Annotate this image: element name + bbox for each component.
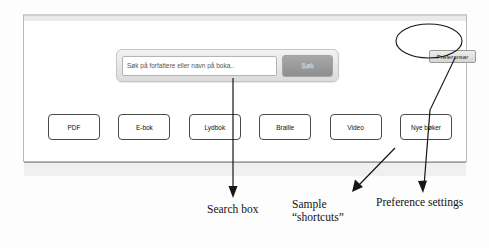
search-button[interactable]: Søk xyxy=(282,55,333,77)
annotation-label-sample-shortcuts-line1: Sample xyxy=(292,198,327,210)
annotation-label-sample-shortcuts: Sample“shortcuts” xyxy=(292,198,344,224)
shortcut-button-nye-boker[interactable]: Nye bøker xyxy=(400,114,452,140)
shortcut-button-row: PDF E-bok Lydbok Braille Video Nye bøker xyxy=(48,114,452,140)
shortcut-button-ebok[interactable]: E-bok xyxy=(118,114,170,140)
preferences-button[interactable]: Preferansar xyxy=(429,50,476,63)
shortcut-button-lydbok[interactable]: Lydbok xyxy=(189,114,241,140)
shortcut-button-braille[interactable]: Braille xyxy=(259,114,311,140)
application-window: Søk Preferansar PDF E-bok Lydbok Braille… xyxy=(23,14,467,162)
window-top-band xyxy=(24,16,466,21)
page-divider-shade xyxy=(24,163,466,176)
annotation-label-sample-shortcuts-line2: “shortcuts” xyxy=(292,211,344,223)
search-input[interactable] xyxy=(122,56,277,76)
annotation-label-preference-settings: Preference settings xyxy=(376,196,463,209)
shortcut-button-video[interactable]: Video xyxy=(330,114,382,140)
annotation-label-search-box: Search box xyxy=(207,203,258,216)
shortcut-button-pdf[interactable]: PDF xyxy=(48,114,100,140)
search-widget: Søk xyxy=(116,49,339,82)
